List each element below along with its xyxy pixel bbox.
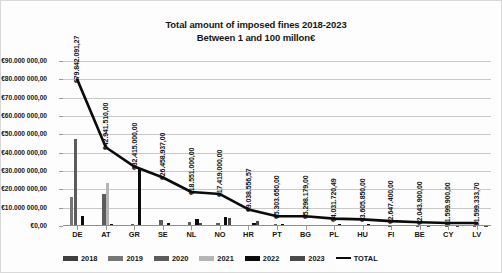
bar-2022 <box>138 169 141 226</box>
legend-swatch-2019 <box>108 256 123 261</box>
x-axis-label-lv: LV <box>462 230 491 239</box>
legend-item-2019[interactable]: 2019 <box>108 254 142 263</box>
chart-title: Total amount of imposed fines 2018-2023 … <box>131 19 381 44</box>
x-axis-label-bg: BG <box>291 230 320 239</box>
bar-group <box>177 61 206 226</box>
legend-label: 2022 <box>263 254 279 263</box>
total-value-label: €5.303.650,00 <box>273 176 280 219</box>
bar-stack <box>177 61 206 226</box>
legend-label: 2018 <box>81 254 97 263</box>
y-axis-tick-label: €70.000 000,00 <box>1 94 47 101</box>
x-axis-label-be: BE <box>405 230 434 239</box>
legend-label: TOTAL <box>354 254 378 263</box>
legend-label: 2020 <box>172 254 188 263</box>
total-value-label: €26.458.937,00 <box>159 133 166 180</box>
chart-title-line1: Total amount of imposed fines 2018-2023 <box>131 19 381 32</box>
y-axis-tick-label: €0,00 <box>30 222 47 229</box>
x-axis-label-nl: NL <box>177 230 206 239</box>
legend-swatch-2022 <box>245 256 260 261</box>
legend-swatch-2020 <box>154 256 169 261</box>
legend-label: 2023 <box>308 254 324 263</box>
legend-item-2020[interactable]: 2020 <box>154 254 188 263</box>
bar-stack <box>206 61 235 226</box>
legend-label: 2019 <box>126 254 142 263</box>
bar-2020 <box>74 139 77 226</box>
total-value-label: €3.605.850,00 <box>359 179 366 222</box>
total-value-label: €17.419.000,00 <box>216 150 223 197</box>
x-axis-line <box>63 225 491 226</box>
y-axis-tick-label: €60.000 000,00 <box>1 112 47 119</box>
chart-legend: 201820192020202120222023TOTAL <box>63 251 463 265</box>
legend-swatch-2023 <box>290 256 305 261</box>
x-axis-label-de: DE <box>63 230 92 239</box>
bar-stack <box>63 61 92 226</box>
bar-2021 <box>106 183 109 226</box>
total-value-label: €32.415.000,00 <box>131 122 138 169</box>
x-axis-label-hu: HU <box>348 230 377 239</box>
legend-item-2023[interactable]: 2023 <box>290 254 324 263</box>
legend-swatch-total <box>336 257 351 260</box>
x-axis-label-gr: GR <box>120 230 149 239</box>
total-value-label: €2.647.400,00 <box>387 181 394 224</box>
total-value-label: €1.599.333,70 <box>473 183 480 226</box>
x-axis-label-cy: CY <box>434 230 463 239</box>
y-axis-tick-label: €30.000 000,00 <box>1 167 47 174</box>
chart-container: Total amount of imposed fines 2018-2023 … <box>0 0 502 273</box>
total-value-label: €5.298.179,00 <box>302 176 309 219</box>
legend-label: 2021 <box>217 254 233 263</box>
y-axis-tick-label: €20.000 000,00 <box>1 185 47 192</box>
y-axis-tick-label: €40.000 000,00 <box>1 149 47 156</box>
x-axis-label-at: AT <box>92 230 121 239</box>
x-axis-label-se: SE <box>149 230 178 239</box>
y-axis-tick-label: €10.000 000,00 <box>1 204 47 211</box>
y-axis-tick-label: €90.000 000,00 <box>1 57 47 64</box>
x-axis-label-pt: PT <box>263 230 292 239</box>
legend-item-total[interactable]: TOTAL <box>336 254 378 263</box>
bar-group <box>206 61 235 226</box>
legend-swatch-2018 <box>63 256 78 261</box>
legend-item-2018[interactable]: 2018 <box>63 254 97 263</box>
x-axis-label-fi: FI <box>377 230 406 239</box>
legend-item-2021[interactable]: 2021 <box>199 254 233 263</box>
total-value-label: €42.941.510,00 <box>102 103 109 150</box>
legend-swatch-2021 <box>199 256 214 261</box>
total-value-label: €9.038.556,57 <box>245 169 252 212</box>
total-value-label: €18.551.000,00 <box>188 148 195 195</box>
total-value-label: €2.043.900,00 <box>416 182 423 225</box>
x-axis-label-pl: PL <box>320 230 349 239</box>
total-value-label: €79.842.091,27 <box>73 35 80 82</box>
total-value-label: €4.031.720,49 <box>330 178 337 221</box>
y-axis-tick-label: €50.000 000,00 <box>1 130 47 137</box>
plot-area: €0,00€10.000 000,00€20.000 000,00€30.000… <box>63 61 491 226</box>
chart-title-line2: Between 1 and 100 millon€ <box>131 32 381 45</box>
total-value-label: €1.599.900,00 <box>444 183 451 226</box>
legend-item-2022[interactable]: 2022 <box>245 254 279 263</box>
x-axis-label-hr: HR <box>234 230 263 239</box>
bar-group <box>63 61 92 226</box>
y-axis-tick-label: €80.000 000,00 <box>1 75 47 82</box>
x-axis-label-no: NO <box>206 230 235 239</box>
y-axis-tick <box>59 226 63 227</box>
